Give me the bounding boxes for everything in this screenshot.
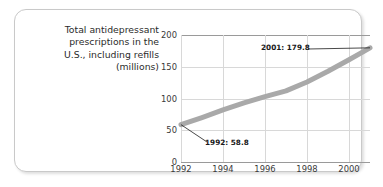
chart-figure: Total antidepressant prescriptions in th… — [0, 0, 383, 187]
x-tick-label-1996: 1996 — [254, 164, 275, 174]
annotation-end-label: 2001: 179.8 — [261, 43, 310, 52]
x-tick-label-2000: 2000 — [338, 164, 359, 174]
caption-line-3: U.S., including refills — [33, 49, 159, 61]
x-tick-label-1992: 1992 — [170, 164, 191, 174]
y-tick-label-200: 200 — [161, 30, 177, 40]
plot-area: 050100150200 19921994199619982000 1992: … — [181, 35, 370, 162]
annotation-start-label: 1992: 58.8 — [205, 138, 249, 147]
gridline-y-0 — [181, 162, 370, 163]
chart-caption: Total antidepressant prescriptions in th… — [33, 24, 159, 74]
y-tick-label-100: 100 — [161, 94, 177, 104]
caption-line-1: Total antidepressant — [33, 24, 159, 36]
y-tick-label-150: 150 — [161, 62, 177, 72]
caption-line-4: (millions) — [33, 61, 159, 73]
y-tick-label-50: 50 — [166, 125, 177, 135]
caption-line-2: prescriptions in the — [33, 36, 159, 48]
x-tick-label-1998: 1998 — [296, 164, 317, 174]
chart-card: Total antidepressant prescriptions in th… — [14, 9, 362, 172]
x-tick-label-1994: 1994 — [212, 164, 233, 174]
